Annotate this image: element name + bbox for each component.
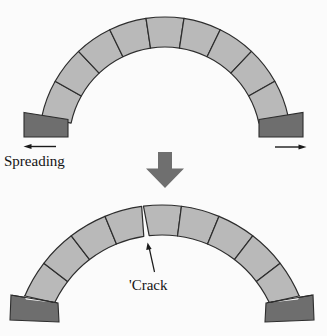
arch-spreading-diagram: Spreading 'Crack	[0, 0, 327, 336]
spreading-label: Spreading	[4, 153, 65, 169]
voussoir	[146, 17, 184, 48]
crack-label: 'Crack	[129, 277, 168, 293]
voussoir	[143, 205, 181, 236]
